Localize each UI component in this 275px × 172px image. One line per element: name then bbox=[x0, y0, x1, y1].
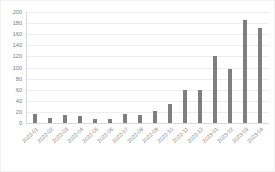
x-axis-labels: 2022-012022-022022-032022-042022-052022-… bbox=[26, 123, 269, 167]
x-axis-tick-slot: 2023-04 bbox=[252, 123, 267, 167]
x-axis-tick-slot: 2023-03 bbox=[237, 123, 252, 167]
x-axis-tick-slot: 2023-02 bbox=[222, 123, 237, 167]
bar-slot bbox=[88, 12, 103, 123]
y-axis-tick-label: 40 bbox=[0, 98, 22, 104]
bar-slot bbox=[28, 12, 43, 123]
bar-slot bbox=[222, 12, 237, 123]
x-axis-tick-slot: 2022-03 bbox=[58, 123, 73, 167]
bar-slot bbox=[177, 12, 192, 123]
y-axis-tick-label: 80 bbox=[0, 76, 22, 82]
bar-slot bbox=[148, 12, 163, 123]
bar-slot bbox=[207, 12, 222, 123]
x-axis-tick-slot: 2022-11 bbox=[177, 123, 192, 167]
y-axis-tick-label: 0 bbox=[0, 120, 22, 126]
y-axis-tick-label: 120 bbox=[0, 53, 22, 59]
x-axis-tick-slot: 2022-02 bbox=[43, 123, 58, 167]
plot-area bbox=[26, 12, 269, 123]
x-axis-tick-slot: 2022-04 bbox=[73, 123, 88, 167]
x-axis-tick-slot: 2022-05 bbox=[88, 123, 103, 167]
bar-chart: 200180160140120100806040200 2022-012022-… bbox=[0, 0, 275, 172]
bar[interactable] bbox=[168, 104, 172, 123]
x-axis-tick-slot: 2022-08 bbox=[133, 123, 148, 167]
bar[interactable] bbox=[198, 90, 202, 123]
y-axis-tick-label: 20 bbox=[0, 109, 22, 115]
bar[interactable] bbox=[213, 56, 217, 123]
bar[interactable] bbox=[153, 111, 157, 123]
bar-slot bbox=[73, 12, 88, 123]
y-axis-tick-label: 180 bbox=[0, 20, 22, 26]
y-axis-tick-label: 160 bbox=[0, 31, 22, 37]
y-axis-tick-label: 60 bbox=[0, 87, 22, 93]
bar[interactable] bbox=[78, 116, 82, 123]
bar[interactable] bbox=[123, 114, 127, 123]
bar[interactable] bbox=[63, 115, 67, 123]
bar-slot bbox=[133, 12, 148, 123]
bar[interactable] bbox=[33, 114, 37, 123]
bar-slot bbox=[252, 12, 267, 123]
bars-container bbox=[26, 12, 269, 123]
x-axis-tick-slot: 2022-10 bbox=[162, 123, 177, 167]
bar-slot bbox=[118, 12, 133, 123]
y-axis-tick-label: 100 bbox=[0, 65, 22, 71]
bar[interactable] bbox=[243, 20, 247, 123]
y-axis-tick-label: 140 bbox=[0, 42, 22, 48]
x-axis-tick-slot: 2022-07 bbox=[118, 123, 133, 167]
bar-slot bbox=[192, 12, 207, 123]
bar[interactable] bbox=[258, 28, 262, 123]
bar-slot bbox=[237, 12, 252, 123]
bar[interactable] bbox=[183, 90, 187, 123]
x-axis-tick-slot: 2022-09 bbox=[148, 123, 163, 167]
bar-slot bbox=[58, 12, 73, 123]
x-axis-tick-slot: 2022-01 bbox=[28, 123, 43, 167]
x-axis-tick-slot: 2022-06 bbox=[103, 123, 118, 167]
bar-slot bbox=[103, 12, 118, 123]
bar[interactable] bbox=[228, 69, 232, 123]
x-axis-tick-slot: 2023-01 bbox=[207, 123, 222, 167]
bar[interactable] bbox=[138, 115, 142, 123]
x-axis-tick-slot: 2022-12 bbox=[192, 123, 207, 167]
bar-slot bbox=[162, 12, 177, 123]
bar-slot bbox=[43, 12, 58, 123]
y-axis-tick-label: 200 bbox=[0, 9, 22, 15]
